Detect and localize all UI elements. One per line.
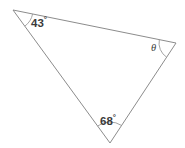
angle-label-68-value: 68 (100, 115, 113, 127)
degree-symbol-icon: ° (113, 113, 116, 122)
angle-label-43-value: 43 (31, 17, 44, 29)
angle-label-68: 68° (100, 114, 116, 127)
angle-arc-theta-icon (159, 40, 167, 58)
angle-label-theta-value: θ (151, 42, 156, 53)
degree-symbol-icon: ° (44, 15, 47, 24)
triangle-diagram: 43° θ 68° (0, 0, 185, 148)
triangle-outline (13, 10, 176, 143)
triangle-svg (0, 0, 185, 148)
angle-label-43: 43° (31, 16, 47, 29)
angle-label-theta: θ (151, 42, 156, 53)
